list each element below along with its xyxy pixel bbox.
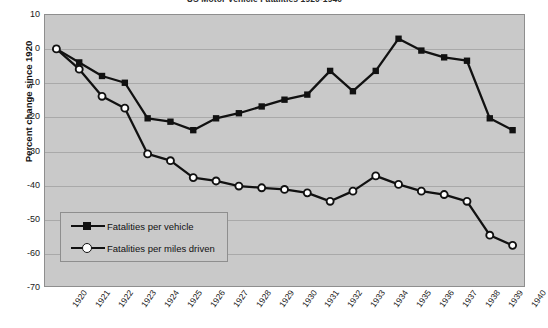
data-point-marker-circle — [372, 172, 379, 179]
x-axis-tick-label: 1920 — [71, 288, 90, 309]
chart-title: US Motor Vehicle Fatalities 1920-1940 — [0, 0, 529, 2]
x-axis-tick-label: 1931 — [322, 288, 341, 309]
y-axis-tick-label: -70 — [0, 282, 40, 292]
data-point-marker-circle — [235, 183, 242, 190]
data-point-marker-square — [418, 47, 424, 53]
data-point-marker-circle — [395, 181, 402, 188]
y-axis-tick-label: 0 — [0, 43, 40, 53]
y-axis-tick-label: -60 — [0, 248, 40, 258]
x-axis-tick-label: 1928 — [254, 288, 273, 309]
y-axis-tick-label: -30 — [0, 146, 40, 156]
legend-item-fatalities-per-vehicle: Fatalities per vehicle — [71, 219, 194, 233]
x-axis-tick-label: 1926 — [208, 288, 227, 309]
data-point-marker-circle — [418, 188, 425, 195]
data-point-marker-circle — [121, 105, 128, 112]
x-axis-tick-label: 1930 — [300, 288, 319, 309]
data-point-marker-circle — [76, 66, 83, 73]
data-point-marker-square — [464, 58, 470, 64]
data-point-marker-square — [441, 54, 447, 60]
data-point-marker-square — [144, 115, 150, 121]
x-axis-tick-label: 1940 — [529, 288, 548, 309]
x-axis-tick-label: 1924 — [162, 288, 181, 309]
data-point-marker-square — [236, 110, 242, 116]
y-axis-tick-label: -40 — [0, 180, 40, 190]
data-point-marker-circle — [463, 198, 470, 205]
x-axis-tick-label: 1932 — [345, 288, 364, 309]
data-point-marker-square — [304, 91, 310, 97]
data-point-marker-square — [259, 103, 265, 109]
filled-square-marker-icon — [71, 220, 105, 232]
y-axis-tick-label: -10 — [0, 77, 40, 87]
data-point-marker-square — [76, 59, 82, 65]
open-circle-marker-icon — [71, 242, 105, 254]
x-axis-tick-label: 1938 — [483, 288, 502, 309]
y-axis-tick-labels: 100-10-20-30-40-50-60-70 — [0, 14, 40, 287]
data-point-marker-square — [281, 97, 287, 103]
x-axis-tick-label: 1933 — [368, 288, 387, 309]
x-axis-tick-labels: 1920192119221923192419251926192719281929… — [44, 288, 525, 328]
data-point-marker-square — [327, 68, 333, 74]
x-axis-tick-label: 1929 — [277, 288, 296, 309]
data-point-marker-circle — [509, 242, 516, 249]
y-axis-tick-label: -50 — [0, 214, 40, 224]
data-point-marker-square — [509, 127, 515, 133]
data-point-marker-square — [487, 115, 493, 121]
x-axis-tick-label: 1934 — [391, 288, 410, 309]
data-point-marker-square — [395, 36, 401, 42]
data-point-marker-circle — [281, 186, 288, 193]
x-axis-tick-label: 1922 — [116, 288, 135, 309]
data-point-marker-circle — [53, 45, 60, 52]
data-point-marker-circle — [304, 189, 311, 196]
data-point-marker-circle — [327, 198, 334, 205]
data-point-marker-square — [213, 115, 219, 121]
data-point-marker-square — [99, 73, 105, 79]
data-point-marker-square — [167, 119, 173, 125]
chart-legend: Fatalities per vehicle Fatalities per mi… — [60, 212, 228, 262]
data-point-marker-circle — [486, 232, 493, 239]
data-point-marker-square — [373, 68, 379, 74]
x-axis-tick-label: 1939 — [506, 288, 525, 309]
x-axis-tick-label: 1925 — [185, 288, 204, 309]
data-point-marker-circle — [349, 188, 356, 195]
data-point-marker-circle — [441, 191, 448, 198]
x-axis-tick-label: 1937 — [460, 288, 479, 309]
legend-item-fatalities-per-miles-driven: Fatalities per miles driven — [71, 241, 215, 255]
x-axis-tick-label: 1936 — [437, 288, 456, 309]
data-point-marker-circle — [167, 157, 174, 164]
data-point-marker-circle — [190, 174, 197, 181]
data-point-marker-circle — [144, 150, 151, 157]
data-point-marker-circle — [213, 178, 220, 185]
data-point-marker-square — [122, 80, 128, 86]
y-axis-tick-label: -20 — [0, 111, 40, 121]
y-axis-tick-label: 10 — [0, 9, 40, 19]
legend-item-label: Fatalities per miles driven — [105, 243, 215, 254]
x-axis-tick-label: 1921 — [93, 288, 112, 309]
legend-item-label: Fatalities per vehicle — [105, 221, 194, 232]
x-axis-tick-label: 1927 — [231, 288, 250, 309]
data-point-marker-square — [190, 127, 196, 133]
data-point-marker-square — [350, 88, 356, 94]
data-point-marker-circle — [258, 184, 265, 191]
x-axis-tick-label: 1935 — [414, 288, 433, 309]
data-point-marker-circle — [99, 93, 106, 100]
x-axis-tick-label: 1923 — [139, 288, 158, 309]
